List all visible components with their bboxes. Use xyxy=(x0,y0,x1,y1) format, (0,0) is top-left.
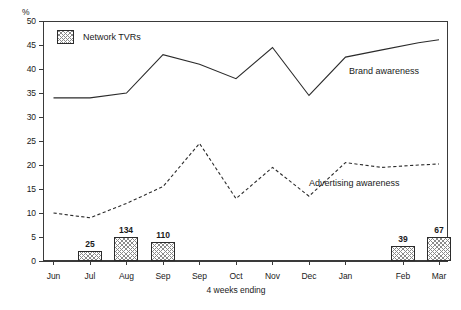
bar-value-mar: 67 xyxy=(434,225,443,235)
series-label-advertising-awareness: Advertising awareness xyxy=(309,178,400,188)
y-tick-label-30: 30 xyxy=(8,112,36,122)
x-tick-mark-sep-2 xyxy=(199,261,200,265)
y-tick-label-10: 10 xyxy=(8,208,36,218)
y-tick-mark-20 xyxy=(39,165,43,166)
y-tick-label-0: 0 xyxy=(8,256,36,266)
y-tick-label-35: 35 xyxy=(8,88,36,98)
bar-value-sep-1: 110 xyxy=(156,230,170,240)
x-tick-label-jun: Jun xyxy=(47,271,61,281)
x-tick-label-aug: Aug xyxy=(119,271,134,281)
series-label-brand-awareness: Brand awareness xyxy=(349,66,419,76)
bar-value-aug: 134 xyxy=(119,225,133,235)
legend-swatch-network-tvrs xyxy=(57,30,74,44)
y-tick-label-50: 50 xyxy=(8,16,36,26)
y-tick-label-25: 25 xyxy=(8,136,36,146)
x-tick-mark-dec xyxy=(309,261,310,265)
x-tick-mark-mar xyxy=(439,261,440,265)
y-tick-mark-10 xyxy=(39,213,43,214)
y-tick-mark-35 xyxy=(39,93,43,94)
y-tick-label-40: 40 xyxy=(8,64,36,74)
bar-value-jul: 25 xyxy=(85,239,94,249)
legend: Network TVRs xyxy=(57,30,141,44)
x-tick-mark-aug xyxy=(126,261,127,265)
x-tick-label-jan: Jan xyxy=(339,271,353,281)
bar-feb xyxy=(391,246,415,261)
x-tick-mark-jan xyxy=(345,261,346,265)
x-tick-mark-jun xyxy=(53,261,54,265)
x-tick-label-mar: Mar xyxy=(432,271,447,281)
x-tick-label-feb: Feb xyxy=(396,271,411,281)
y-tick-mark-50 xyxy=(39,21,43,22)
y-tick-label-20: 20 xyxy=(8,160,36,170)
y-tick-label-45: 45 xyxy=(8,40,36,50)
y-tick-mark-30 xyxy=(39,117,43,118)
y-tick-label-15: 15 xyxy=(8,184,36,194)
x-tick-label-sep-2: Sep xyxy=(192,271,207,281)
x-axis-title: 4 weeks ending xyxy=(206,285,265,295)
x-tick-label-sep-1: Sep xyxy=(155,271,170,281)
y-tick-mark-15 xyxy=(39,189,43,190)
x-tick-mark-jul xyxy=(90,261,91,265)
y-tick-mark-5 xyxy=(39,237,43,238)
plot-frame xyxy=(43,21,448,261)
bar-aug xyxy=(114,237,138,261)
x-tick-mark-sep-1 xyxy=(163,261,164,265)
chart-container: % 50 45 40 35 30 25 20 15 10 5 0 25 134 … xyxy=(0,0,461,310)
x-tick-label-jul: Jul xyxy=(85,271,96,281)
bar-value-feb: 39 xyxy=(398,234,407,244)
y-tick-mark-40 xyxy=(39,69,43,70)
x-tick-label-nov: Nov xyxy=(265,271,280,281)
y-tick-label-5: 5 xyxy=(8,232,36,242)
x-tick-mark-nov xyxy=(272,261,273,265)
y-tick-mark-25 xyxy=(39,141,43,142)
x-tick-mark-feb xyxy=(403,261,404,265)
x-tick-label-oct: Oct xyxy=(229,271,242,281)
bar-sep-1 xyxy=(151,242,175,261)
bar-mar xyxy=(427,237,451,261)
y-tick-mark-45 xyxy=(39,45,43,46)
x-axis-baseline xyxy=(43,261,448,262)
bar-jul xyxy=(78,251,102,261)
legend-label-network-tvrs: Network TVRs xyxy=(83,32,141,42)
x-tick-label-dec: Dec xyxy=(301,271,316,281)
x-tick-mark-oct xyxy=(236,261,237,265)
